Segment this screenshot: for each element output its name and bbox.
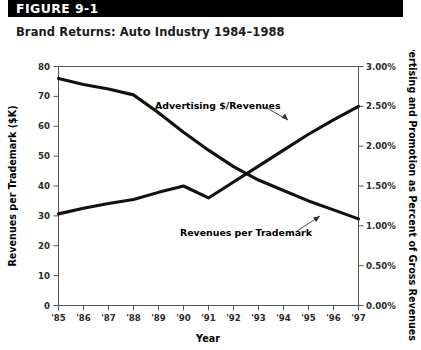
left-axis: 01020304050607080 — [38, 62, 58, 311]
annotation-revenues-arrowhead — [313, 216, 320, 222]
x-axis-tick-label: '90 — [176, 313, 191, 323]
right-axis: 0.00%0.50%1.00%1.50%2.00%2.50%3.00% — [359, 62, 397, 311]
figure-number-label: FIGURE 9-1 — [16, 1, 99, 17]
x-axis-tick-label: '87 — [101, 313, 116, 323]
right-axis-tick-label: 1.50% — [366, 181, 396, 191]
dual-axis-line-chart: 01020304050607080 0.00%0.50%1.00%1.50%2.… — [0, 50, 421, 350]
left-axis-tick-label: 30 — [38, 211, 50, 221]
x-axis: '85'86'87'88'89'90'91'92'93'94'95'96'97 — [51, 306, 366, 324]
figure-title: Brand Returns: Auto Industry 1984–1988 — [16, 25, 285, 39]
x-axis-tick-label: '88 — [126, 313, 141, 323]
x-axis-tick-label: '85 — [51, 313, 66, 323]
right-axis-tick-label: 0.00% — [366, 301, 396, 311]
annotation-advertising-arrowhead — [282, 114, 289, 120]
x-axis-tick-label: '89 — [151, 313, 166, 323]
x-axis-tick-label: '96 — [326, 313, 341, 323]
left-axis-tick-label: 20 — [38, 241, 50, 251]
right-axis-tick-label: 1.00% — [366, 221, 396, 231]
left-axis-tick-label: 50 — [38, 151, 50, 161]
right-axis-tick-label: 2.00% — [366, 141, 396, 151]
data-series-line-1 — [59, 106, 359, 214]
annotation-revenues: Revenues per Trademark — [180, 216, 320, 238]
left-axis-tick-label: 60 — [38, 121, 50, 131]
x-axis-tick-label: '92 — [226, 313, 241, 323]
x-axis-title: Year — [195, 333, 220, 344]
right-axis-tick-label: 0.50% — [366, 261, 396, 271]
x-axis-tick-label: '97 — [351, 313, 366, 323]
x-axis-tick-label: '91 — [201, 313, 216, 323]
x-axis-tick-label: '93 — [251, 313, 266, 323]
right-axis-tick-label: 3.00% — [366, 62, 396, 72]
annotation-advertising: Advertising $/Revenues — [155, 100, 288, 120]
right-axis-tick-label: 2.50% — [366, 101, 396, 111]
left-axis-tick-label: 70 — [38, 91, 50, 101]
left-axis-tick-label: 0 — [44, 301, 50, 311]
x-axis-tick-label: '86 — [76, 313, 91, 323]
left-axis-tick-label: 80 — [38, 62, 50, 72]
left-axis-title: Revenues per Trademark ($K) — [7, 105, 18, 266]
chart-figure: 01020304050607080 0.00%0.50%1.00%1.50%2.… — [0, 50, 421, 350]
x-axis-tick-label: '94 — [276, 313, 291, 323]
x-axis-tick-label: '95 — [301, 313, 316, 323]
left-axis-tick-label: 10 — [38, 271, 50, 281]
annotation-advertising-label: Advertising $/Revenues — [155, 100, 281, 111]
left-axis-tick-label: 40 — [38, 181, 50, 191]
right-axis-title: Advertising and Promotion as Percent of … — [407, 50, 418, 341]
annotation-revenues-label: Revenues per Trademark — [180, 227, 313, 238]
